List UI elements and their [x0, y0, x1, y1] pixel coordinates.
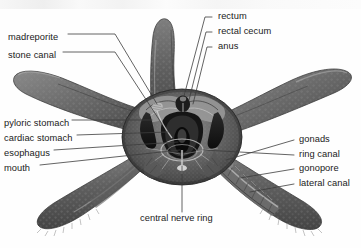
label-central-nerve-ring: central nerve ring: [140, 213, 213, 223]
label-rectum: rectum: [218, 11, 247, 21]
label-anus: anus: [218, 41, 238, 51]
figure-canvas: madreporite stone canal pyloric stomach …: [0, 0, 361, 248]
label-ring-canal: ring canal: [299, 149, 340, 159]
label-gonads: gonads: [299, 134, 330, 144]
label-gonopore: gonopore: [299, 163, 339, 173]
label-stone-canal: stone canal: [8, 50, 56, 60]
label-rectal-cecum: rectal cecum: [218, 26, 271, 36]
label-cardiac-stomach: cardiac stomach: [4, 133, 72, 143]
label-esophagus: esophagus: [4, 148, 50, 158]
label-mouth: mouth: [4, 163, 30, 173]
label-madreporite: madreporite: [8, 32, 58, 42]
label-pyloric-stomach: pyloric stomach: [4, 118, 69, 128]
label-lateral-canal: lateral canal: [299, 178, 350, 188]
